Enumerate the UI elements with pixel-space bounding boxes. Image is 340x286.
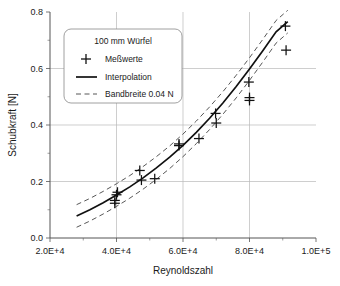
legend-title: 100 mm Würfel — [94, 36, 152, 46]
chart-figure: 2.0E+44.0E+46.0E+48.0E+41.0E+50.00.20.40… — [0, 0, 340, 286]
x-tick-label: 6.0E+4 — [169, 246, 198, 256]
legend-label-bandbreite: Bandbreite 0.04 N — [105, 89, 174, 99]
y-axis-title: Schubkraft [N] — [7, 93, 18, 157]
legend-label-interpolation: Interpolation — [105, 72, 152, 82]
y-tick-label: 0.2 — [30, 177, 43, 187]
chart-legend: 100 mm Würfel Meßwerte Interpolation Ban… — [64, 29, 182, 103]
y-tick-label: 0.6 — [30, 64, 43, 74]
y-tick-label: 0.0 — [30, 233, 43, 243]
y-tick-label: 0.4 — [30, 120, 43, 130]
thrust-vs-reynolds-chart: 2.0E+44.0E+46.0E+48.0E+41.0E+50.00.20.40… — [0, 0, 340, 286]
y-tick-label: 0.8 — [30, 7, 43, 17]
x-axis-title: Reynoldszahl — [153, 265, 213, 276]
x-tick-label: 2.0E+4 — [36, 246, 65, 256]
x-tick-label: 1.0E+5 — [302, 246, 331, 256]
x-tick-label: 8.0E+4 — [235, 246, 264, 256]
x-tick-label: 4.0E+4 — [102, 246, 131, 256]
legend-label-messwerte: Meßwerte — [105, 54, 143, 64]
